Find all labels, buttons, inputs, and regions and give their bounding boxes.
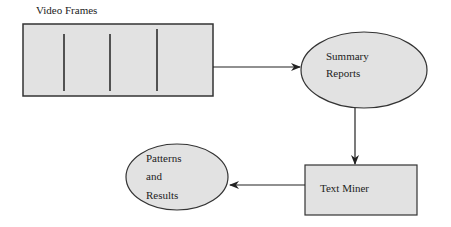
summary-label-line1: Summary: [326, 50, 369, 63]
patterns-label-line2: and: [146, 170, 162, 183]
summary-reports-ellipse: [301, 32, 427, 108]
diagram-canvas: [0, 0, 451, 227]
text-miner-label: Text Miner: [320, 182, 369, 195]
video-frames-box: [23, 24, 213, 96]
patterns-label-line3: Results: [146, 189, 178, 202]
summary-label-line2: Reports: [326, 67, 360, 80]
patterns-label-line1: Patterns: [146, 152, 181, 165]
video-frames-label: Video Frames: [36, 4, 97, 17]
